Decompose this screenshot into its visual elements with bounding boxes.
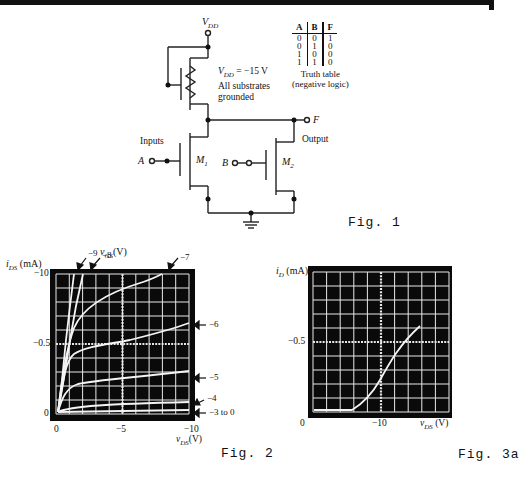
fig3a-y-tick-05: −0.5 xyxy=(288,336,305,346)
fig3a-x-tick-10: −10 xyxy=(372,418,387,428)
fig3a-y-axis-label: iD (mA) xyxy=(276,265,308,279)
fig3a-oscilloscope-plot xyxy=(0,0,532,493)
fig3a-x-tick-0: 0 xyxy=(300,418,305,428)
fig3a-caption: Fig. 3a xyxy=(458,447,520,462)
fig3a-x-axis-label: vDS (V) xyxy=(420,418,448,431)
